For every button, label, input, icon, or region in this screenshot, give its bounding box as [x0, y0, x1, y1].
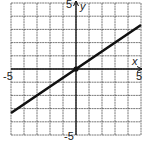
y-axis-label: y [80, 1, 86, 12]
x-max-label: 5 [136, 71, 142, 82]
y-max-label: 5 [66, 0, 72, 10]
x-min-label: -5 [3, 71, 13, 82]
origin-point [73, 66, 78, 71]
y-min-label: -5 [64, 131, 74, 142]
coordinate-plane [0, 0, 143, 143]
x-axis-label: x [132, 56, 138, 67]
